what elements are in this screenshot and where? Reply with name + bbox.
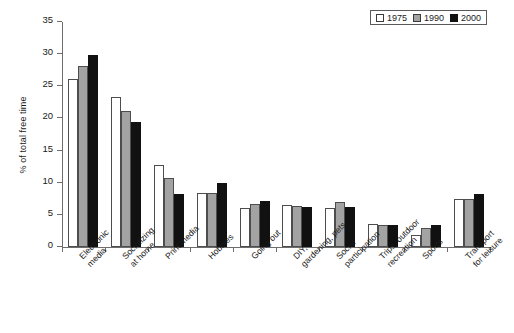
x-axis-tick xyxy=(233,247,234,252)
bar xyxy=(111,97,121,247)
plot-area: 05101520253035 xyxy=(62,22,490,247)
x-axis-tick xyxy=(190,247,191,252)
bar xyxy=(164,178,174,247)
bar xyxy=(78,66,88,247)
y-axis-label: % of total free time xyxy=(18,60,28,210)
bar-group xyxy=(240,22,270,247)
y-axis-tick-label: 30 xyxy=(42,46,53,57)
y-axis-tick: 5 xyxy=(57,214,62,215)
bar-group xyxy=(111,22,141,247)
bar xyxy=(464,199,474,247)
legend-item: 2000 xyxy=(450,13,481,23)
y-axis-tick: 20 xyxy=(57,117,62,118)
bar xyxy=(197,193,207,247)
y-axis-tick: 25 xyxy=(57,85,62,86)
x-axis-tick xyxy=(447,247,448,252)
bar-group xyxy=(325,22,355,247)
bar-group xyxy=(368,22,398,247)
legend-item: 1975 xyxy=(376,13,407,23)
legend-swatch xyxy=(376,14,384,22)
y-axis-tick-label: 20 xyxy=(42,110,53,121)
legend-item: 1990 xyxy=(413,13,444,23)
bar-group xyxy=(282,22,312,247)
y-axis-tick: 30 xyxy=(57,53,62,54)
y-axis-tick-label: 10 xyxy=(42,175,53,186)
bar xyxy=(282,205,292,247)
x-axis-tick xyxy=(62,247,63,252)
y-axis-tick: 10 xyxy=(57,182,62,183)
y-axis-tick: 15 xyxy=(57,150,62,151)
y-axis-tick-label: 0 xyxy=(48,239,53,250)
y-axis-tick-label: 25 xyxy=(42,78,53,89)
bar xyxy=(131,122,141,247)
bar xyxy=(121,111,131,247)
y-axis-tick: 35 xyxy=(57,21,62,22)
legend-label: 1990 xyxy=(424,13,444,23)
x-axis-tick xyxy=(276,247,277,252)
bar-group xyxy=(68,22,98,247)
bar xyxy=(240,208,250,247)
y-axis-tick-label: 35 xyxy=(42,14,53,25)
bar xyxy=(88,55,98,247)
legend-label: 2000 xyxy=(461,13,481,23)
bar-group xyxy=(197,22,227,247)
bar xyxy=(454,199,464,247)
legend-swatch xyxy=(450,14,458,22)
bar xyxy=(68,79,78,247)
legend-swatch xyxy=(413,14,421,22)
bar-group xyxy=(454,22,484,247)
y-axis-line xyxy=(62,22,63,247)
bar xyxy=(207,193,217,247)
bar-group xyxy=(411,22,441,247)
chart-legend: 197519902000 xyxy=(370,10,487,25)
bar xyxy=(250,204,260,247)
bar-group xyxy=(154,22,184,247)
legend-label: 1975 xyxy=(387,13,407,23)
bar xyxy=(292,206,302,247)
bar-chart-figure: % of total free time 05101520253035 Elec… xyxy=(0,0,514,333)
y-axis-tick-label: 15 xyxy=(42,143,53,154)
y-axis-tick-label: 5 xyxy=(48,207,53,218)
